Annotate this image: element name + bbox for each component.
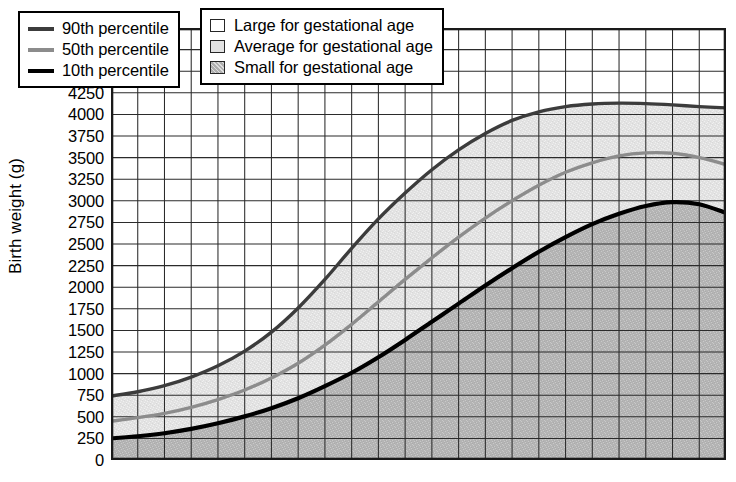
birth-weight-percentile-chart: Birth weight (g) 50004750450042504000375… [0,0,736,482]
y-tick-label: 750 [48,387,104,404]
y-tick-label: 500 [48,409,104,426]
legend-gestational-categories: Large for gestational ageAverage for ges… [200,8,444,85]
fill-swatch-icon [210,40,225,53]
y-tick-label: 2250 [48,258,104,275]
y-tick-label: 2500 [48,236,104,253]
plot-area [111,28,726,460]
legend-item-label: Small for gestational age [234,58,413,77]
plot-svg [111,28,726,460]
legend-item-label: Average for gestational age [234,37,433,56]
y-tick-label: 2000 [48,279,104,296]
legend-item: 50th percentile [28,39,169,60]
legend-item: Average for gestational age [210,36,433,57]
line-swatch-icon [28,48,54,52]
y-tick-label: 0 [48,452,104,469]
legend-item-label: 10th percentile [62,61,169,80]
fill-swatch-icon [210,19,225,32]
legend-item: 10th percentile [28,60,169,81]
y-tick-label: 3250 [48,171,104,188]
y-tick-label: 3750 [48,128,104,145]
line-swatch-icon [28,27,54,31]
y-tick-label: 1750 [48,301,104,318]
legend-item: Large for gestational age [210,15,433,36]
y-tick-label: 2750 [48,214,104,231]
legend-item: 90th percentile [28,18,169,39]
fill-swatch-icon [210,61,225,74]
y-tick-label: 1000 [48,366,104,383]
legend-item-label: 50th percentile [62,40,169,59]
y-tick-label: 3500 [48,150,104,167]
gridlines [111,28,726,460]
y-tick-label: 4000 [48,106,104,123]
line-swatch-icon [28,69,54,73]
y-tick-label: 3000 [48,193,104,210]
legend-item-label: Large for gestational age [234,16,414,35]
legend-item-label: 90th percentile [62,19,169,38]
y-tick-label: 250 [48,430,104,447]
legend-percentile-lines: 90th percentile50th percentile10th perce… [18,11,180,88]
y-axis-title: Birth weight (g) [6,116,26,316]
y-tick-label: 1250 [48,344,104,361]
legend-item: Small for gestational age [210,57,433,78]
y-tick-label: 1500 [48,322,104,339]
